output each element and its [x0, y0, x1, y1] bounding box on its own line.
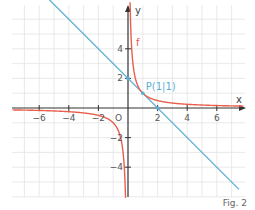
- coordinate-plane: −6−4−224642−2−4OxyP(1|1)f: [0, 0, 255, 210]
- point-marker: [156, 106, 160, 110]
- function-f-label: f: [136, 37, 140, 48]
- x-axis-label: x: [236, 94, 242, 105]
- figure-caption: Fig. 2: [223, 198, 247, 208]
- y-axis-label: y: [135, 5, 141, 16]
- y-tick-label: −2: [110, 133, 123, 143]
- y-tick-label: 2: [117, 73, 123, 83]
- x-tick-label: −4: [62, 113, 76, 123]
- x-tick-label: 2: [155, 113, 161, 123]
- point-p-label: P(1|1): [146, 81, 176, 93]
- x-tick-label: −2: [92, 113, 105, 123]
- origin-label: O: [115, 113, 122, 123]
- x-tick-label: 4: [184, 113, 190, 123]
- x-tick-label: 6: [214, 113, 220, 123]
- point-marker: [126, 77, 130, 81]
- y-tick-label: 4: [117, 44, 123, 54]
- point-marker: [141, 91, 145, 95]
- y-tick-label: −4: [110, 162, 124, 172]
- x-tick-label: −6: [33, 113, 47, 123]
